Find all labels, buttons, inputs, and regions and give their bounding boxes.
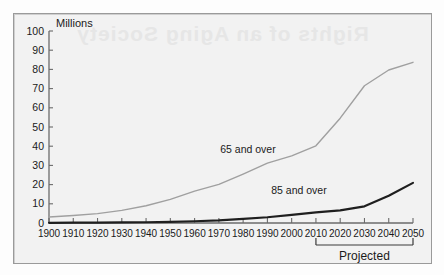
svg-text:2010: 2010 — [305, 228, 328, 239]
svg-text:1980: 1980 — [232, 228, 255, 239]
svg-text:80: 80 — [32, 63, 44, 75]
svg-text:20: 20 — [32, 178, 44, 190]
svg-text:2050: 2050 — [402, 228, 425, 239]
svg-text:40: 40 — [32, 140, 44, 152]
svg-text:1970: 1970 — [208, 228, 231, 239]
chart-axes — [49, 31, 413, 223]
svg-text:1920: 1920 — [86, 228, 109, 239]
x-axis-ticks: 1900191019201930194019501960197019801990… — [38, 218, 425, 239]
svg-text:70: 70 — [32, 82, 44, 94]
svg-text:2030: 2030 — [353, 228, 376, 239]
svg-text:2040: 2040 — [378, 228, 401, 239]
svg-text:Projected: Projected — [339, 249, 390, 263]
svg-text:1940: 1940 — [135, 228, 158, 239]
svg-text:65 and over: 65 and over — [220, 143, 276, 155]
figure-frame: Rights of an Aging Society Millions 0102… — [13, 13, 432, 264]
svg-text:1930: 1930 — [111, 228, 134, 239]
svg-text:60: 60 — [32, 101, 44, 113]
svg-text:50: 50 — [32, 121, 44, 133]
chart-annotations: 65 and over85 and over — [220, 143, 327, 196]
svg-text:1910: 1910 — [62, 228, 85, 239]
scanned-page: Rights of an Aging Society Millions 0102… — [0, 0, 444, 275]
svg-text:0: 0 — [38, 217, 44, 229]
svg-text:30: 30 — [32, 159, 44, 171]
svg-text:1950: 1950 — [159, 228, 182, 239]
svg-text:100: 100 — [26, 25, 44, 37]
svg-text:90: 90 — [32, 44, 44, 56]
svg-text:1990: 1990 — [256, 228, 279, 239]
svg-text:1960: 1960 — [183, 228, 206, 239]
projected-bracket: Projected — [316, 238, 413, 263]
svg-text:85 and over: 85 and over — [271, 184, 327, 196]
svg-text:1900: 1900 — [38, 228, 61, 239]
svg-text:2020: 2020 — [329, 228, 352, 239]
line-chart: 0102030405060708090100 19001910192019301… — [14, 14, 431, 263]
svg-text:2000: 2000 — [281, 228, 304, 239]
svg-text:10: 10 — [32, 197, 44, 209]
